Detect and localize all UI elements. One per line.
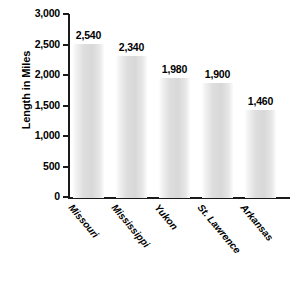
y-axis-tick-label: 0 — [4, 191, 60, 201]
bar[interactable] — [159, 78, 190, 198]
x-axis-category-label: Missouri — [67, 202, 101, 240]
y-axis-tick-label: 1,000 — [4, 130, 60, 140]
y-axis-tick — [63, 135, 69, 137]
bar-value-label: 2,340 — [119, 42, 144, 53]
x-axis-category-label: Mississippi — [110, 202, 152, 250]
bar-value-label: 2,540 — [76, 30, 101, 41]
bar[interactable] — [202, 83, 233, 198]
bar[interactable] — [116, 56, 147, 198]
y-axis-tick — [63, 13, 69, 15]
bar-group: 2,340 — [116, 14, 147, 198]
y-axis-tick-label: 2,500 — [4, 39, 60, 49]
bar-value-label: 1,460 — [248, 96, 273, 107]
bar-group: 1,900 — [202, 14, 233, 198]
y-axis-tick-label: 500 — [4, 161, 60, 171]
y-axis-tick — [63, 74, 69, 76]
x-axis-category-label: St. Lawrence — [196, 202, 243, 255]
y-axis-tick-label: 3,000 — [4, 8, 60, 18]
x-axis-category-label: Arkansas — [239, 202, 276, 243]
bar-group: 1,980 — [159, 14, 190, 198]
bar-chart: Length in Miles 3,0002,5002,0001,5001,00… — [0, 0, 298, 286]
bar-value-label: 1,900 — [205, 69, 230, 80]
y-axis-tick — [63, 105, 69, 107]
bar[interactable] — [245, 110, 276, 198]
y-axis-tick-label: 1,500 — [4, 100, 60, 110]
bar-group: 2,540 — [73, 14, 104, 198]
y-axis-tick — [63, 44, 69, 46]
bar-value-label: 1,980 — [162, 64, 187, 75]
y-axis-tick — [63, 196, 69, 198]
y-axis-tick — [63, 166, 69, 168]
y-axis-tick-label: 2,000 — [4, 69, 60, 79]
bar[interactable] — [73, 44, 104, 198]
x-axis-category-label: Yukon — [153, 202, 181, 232]
bar-group: 1,460 — [245, 14, 276, 198]
plot-area: 2,5402,3401,9801,9001,460 — [70, 14, 290, 198]
